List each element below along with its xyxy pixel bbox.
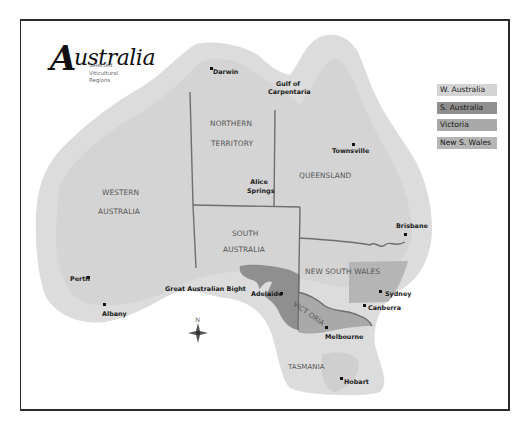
state-label-south-australia-1: SOUTH (232, 229, 259, 238)
label-gulf-of-carpentaria: Gulf ofCarpentaria (268, 80, 308, 96)
city-label-hobart: Hobart (344, 378, 369, 386)
city-label-alice-springs: AliceSprings (247, 178, 271, 195)
city-label-townsville: Townsville (332, 147, 369, 155)
city-dot-townsville (352, 143, 355, 146)
city-dot-sydney (379, 290, 382, 293)
city-label-perth: Perth (70, 275, 90, 283)
legend-item-w-australia: W. Australia (437, 84, 497, 96)
legend-item-victoria: Victoria (437, 119, 497, 131)
city-label-albany: Albany (102, 310, 127, 318)
city-label-brisbane: Brisbane (396, 222, 428, 230)
label-great-australian-bight: Great Australian Bight (165, 285, 246, 293)
map-subtitle: Selected Viticultural Regions (89, 62, 139, 85)
state-label-northern-territory-2: TERRITORY (211, 139, 253, 148)
state-label-new-south-wales: NEW SOUTH WALES (305, 267, 380, 276)
state-label-northern-territory-1: NORTHERN (210, 119, 252, 128)
city-dot-albany (103, 303, 106, 306)
state-label-south-australia-2: AUSTRALIA (223, 245, 265, 254)
city-dot-canberra (363, 304, 366, 307)
city-label-sydney: Sydney (385, 290, 411, 298)
city-label-melbourne: Melbourne (325, 333, 363, 341)
city-label-canberra: Canberra (368, 304, 401, 312)
state-label-queensland: QUEENSLAND (299, 171, 351, 180)
state-label-western-australia-1: WESTERN (102, 188, 139, 197)
city-label-adelaide: Adelaide (251, 290, 282, 298)
city-label-darwin: Darwin (213, 68, 238, 76)
city-dot-hobart (340, 377, 343, 380)
legend-item-s-australia: S. Australia (437, 102, 497, 114)
state-label-western-australia-2: AUSTRALIA (98, 207, 140, 216)
compass-rose-icon (188, 323, 208, 343)
city-dot-melbourne (325, 326, 328, 329)
state-label-tasmania: TASMANIA (288, 363, 325, 371)
legend: W. Australia S. Australia Victoria New S… (437, 84, 497, 154)
compass-north-label: N (195, 316, 200, 323)
city-dot-brisbane (404, 233, 407, 236)
legend-item-new-s-wales: New S. Wales (437, 137, 497, 149)
